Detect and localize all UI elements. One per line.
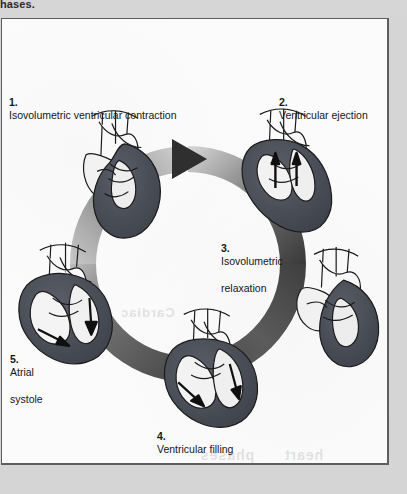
phase-label-1: 1. Isovolumetric ventricular contraction	[9, 82, 176, 123]
heart-diagram-phase-4	[164, 309, 257, 427]
page-bottom-margin	[0, 466, 407, 494]
figure-frame: Cardiac phases heart	[1, 18, 389, 465]
phase-number-3: 3.	[221, 242, 230, 254]
phase-text-5-line2: systole	[10, 393, 43, 405]
phase-label-5: 5. Atrial systole	[10, 339, 43, 407]
scanned-page: hases. Cardiac phases heart	[0, 0, 407, 494]
phase-text-4: Ventricular filling	[157, 443, 233, 455]
caption-fragment-strip: hases.	[0, 0, 407, 17]
phase-label-4: 4. Ventricular filling	[157, 416, 233, 457]
phase-text-3-line1: Isovolumetric	[221, 255, 283, 267]
phase-number-5: 5.	[10, 353, 19, 365]
heart-diagram-phase-3	[297, 247, 379, 367]
caption-fragment-text: hases.	[0, 0, 35, 10]
phase-text-5-line1: Atrial	[10, 366, 34, 378]
phase-number-2: 2.	[279, 96, 288, 108]
phase-number-4: 4.	[157, 430, 166, 442]
phase-label-2: 2. Ventricular ejection	[279, 82, 368, 123]
phase-text-2: Ventricular ejection	[279, 109, 368, 121]
phase-label-3: 3. Isovolumetric relaxation	[221, 228, 283, 296]
heart-diagram-phase-2	[242, 109, 332, 232]
phase-text-1: Isovolumetric ventricular contraction	[9, 109, 176, 121]
phase-text-3-line2: relaxation	[221, 282, 267, 294]
phase-number-1: 1.	[9, 96, 18, 108]
